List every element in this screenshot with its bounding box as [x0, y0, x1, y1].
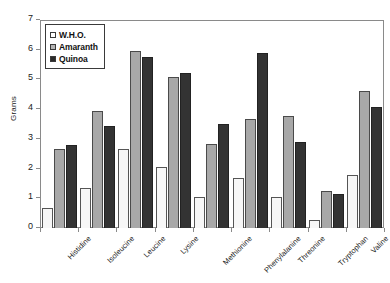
x-axis-label: Histidine — [66, 234, 93, 261]
bar-group — [231, 20, 269, 228]
bar — [321, 191, 332, 228]
bar-group — [269, 20, 307, 228]
legend-item: W.H.O. — [50, 29, 98, 40]
bar — [245, 119, 256, 228]
legend-label: Amaranth — [59, 42, 98, 52]
bar-group — [346, 20, 384, 228]
bar — [54, 149, 65, 228]
y-axis-title: Grams — [9, 79, 18, 139]
legend-label: W.H.O. — [59, 30, 86, 40]
bar — [257, 53, 268, 228]
x-axis-label: Lysine — [178, 234, 200, 256]
y-tick-label: 5 — [28, 72, 33, 82]
bar — [359, 91, 370, 228]
bar — [283, 116, 294, 228]
legend-item: Quinoa — [50, 53, 98, 64]
bar — [156, 167, 167, 229]
x-axis-label: Tryptophan — [336, 234, 370, 268]
legend-swatch-icon — [50, 32, 56, 38]
bar — [92, 111, 103, 228]
x-axis-labels: HistidineIsoleucineLeucineLysineMethioni… — [40, 232, 384, 282]
bar — [194, 197, 205, 228]
bar — [118, 149, 129, 228]
bar-group — [155, 20, 193, 228]
x-axis-label: Valine — [369, 234, 390, 255]
bar — [309, 220, 320, 228]
bar — [66, 145, 77, 228]
bar-group — [116, 20, 154, 228]
bar — [218, 124, 229, 228]
y-tick-label: 0 — [28, 221, 33, 231]
bar — [233, 178, 244, 229]
bar — [130, 51, 141, 228]
y-tick-label: 4 — [28, 102, 33, 112]
y-tick-label: 2 — [28, 162, 33, 172]
chart-legend: W.H.O.AmaranthQuinoa — [45, 24, 105, 69]
bar — [168, 77, 179, 228]
y-tick-label: 6 — [28, 43, 33, 53]
bar — [271, 197, 282, 228]
bar — [180, 73, 191, 228]
bar — [371, 107, 382, 228]
legend-item: Amaranth — [50, 41, 98, 52]
y-tick-label: 1 — [28, 191, 33, 201]
bar — [42, 208, 53, 228]
x-tick-mark — [384, 228, 385, 232]
bar — [142, 57, 153, 228]
x-axis-label: Methionine — [221, 234, 254, 267]
y-tick-label: 7 — [28, 13, 33, 23]
bar — [80, 188, 91, 228]
bar — [333, 194, 344, 228]
x-axis-label: Isoleucine — [106, 234, 137, 265]
legend-label: Quinoa — [59, 54, 88, 64]
bar — [347, 175, 358, 228]
bar — [206, 144, 217, 228]
bar — [104, 126, 115, 228]
legend-swatch-icon — [50, 44, 56, 50]
legend-swatch-icon — [50, 56, 56, 62]
bar — [295, 142, 306, 228]
bar-group — [193, 20, 231, 228]
y-tick-label: 3 — [28, 132, 33, 142]
bar-group — [308, 20, 346, 228]
x-axis-label: Phenylalanine — [262, 234, 303, 275]
x-axis-label: Leucine — [141, 234, 166, 259]
